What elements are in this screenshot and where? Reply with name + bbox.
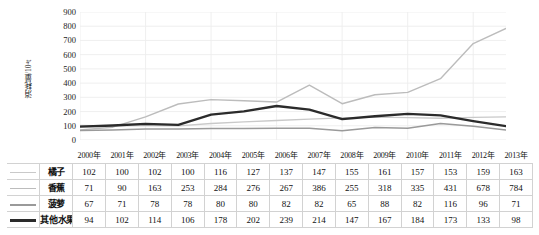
y-axis-tick: 200	[44, 107, 76, 116]
series-name-cell: 其他水果	[40, 212, 73, 228]
table-column-header-year: 2001年	[106, 148, 139, 164]
corner-swatch-cell	[7, 148, 40, 164]
table-column-header-year: 2003年	[171, 148, 204, 164]
y-axis-tick: 0	[44, 136, 76, 145]
table-column-header-year: 2008年	[335, 148, 368, 164]
table-column-header-year: 2010年	[401, 148, 434, 164]
table-cell-value: 100	[171, 164, 204, 180]
series-name-cell: 菠萝	[40, 196, 73, 212]
table-cell-value: 267	[270, 180, 303, 196]
table-cell-value: 202	[237, 212, 270, 228]
table-cell-value: 284	[204, 180, 237, 196]
table-body: 橘子10210010210011612713714715516115715315…	[7, 164, 533, 228]
y-axis-tick: 800	[44, 22, 76, 31]
table-cell-value: 102	[73, 164, 106, 180]
table-cell-value: 116	[204, 164, 237, 180]
table-column-header-year: 2007年	[303, 148, 336, 164]
table-cell-value: 82	[401, 196, 434, 212]
legend-swatch-cell	[7, 180, 40, 196]
y-axis-title: 消耗量/10⁴t	[24, 36, 38, 122]
y-axis-tick: 600	[44, 50, 76, 59]
table-cell-value: 102	[138, 164, 171, 180]
table-cell-value: 127	[237, 164, 270, 180]
table-cell-value: 239	[270, 212, 303, 228]
table-cell-value: 335	[401, 180, 434, 196]
table-cell-value: 178	[204, 212, 237, 228]
y-axis-tick: 500	[44, 65, 76, 74]
table-column-header-year: 2004年	[204, 148, 237, 164]
table-cell-value: 214	[303, 212, 336, 228]
table-cell-value: 82	[303, 196, 336, 212]
y-axis-tick: 300	[44, 93, 76, 102]
table-header: 2000年2001年2002年2003年2004年2005年2006年2007年…	[7, 148, 533, 164]
y-axis-tick: 400	[44, 79, 76, 88]
table-cell-value: 90	[106, 180, 139, 196]
plot-area	[80, 12, 506, 140]
y-axis-tick-labels: 9008007006005004003002001000	[44, 8, 76, 140]
table-row: 菠萝67717878808082826588821169671	[7, 196, 533, 212]
table-cell-value: 71	[106, 196, 139, 212]
table-cell-value: 116	[434, 196, 467, 212]
table-row: 香蕉71901632532842762673862553183354316787…	[7, 180, 533, 196]
legend-swatch-cell	[7, 164, 40, 180]
table-cell-value: 137	[270, 164, 303, 180]
data-table: 2000年2001年2002年2003年2004年2005年2006年2007年…	[7, 148, 533, 232]
table-cell-value: 153	[434, 164, 467, 180]
table-cell-value: 678	[467, 180, 500, 196]
table-cell-value: 167	[368, 212, 401, 228]
table-cell-value: 386	[303, 180, 336, 196]
y-axis-tick: 900	[44, 8, 76, 17]
plot-svg	[80, 12, 506, 140]
table-cell-value: 784	[500, 180, 533, 196]
table-column-header-year: 2009年	[368, 148, 401, 164]
table-header-row: 2000年2001年2002年2003年2004年2005年2006年2007年…	[7, 148, 533, 164]
legend-line-icon	[10, 204, 36, 206]
table-cell-value: 173	[434, 212, 467, 228]
table-cell-value: 106	[171, 212, 204, 228]
table-cell-value: 431	[434, 180, 467, 196]
series-name-cell: 橘子	[40, 164, 73, 180]
table-cell-value: 163	[138, 180, 171, 196]
table-column-header-year: 2002年	[138, 148, 171, 164]
table-cell-value: 78	[171, 196, 204, 212]
table-column-header-year: 2012年	[467, 148, 500, 164]
table-cell-value: 155	[335, 164, 368, 180]
table-cell-value: 161	[368, 164, 401, 180]
table-cell-value: 147	[303, 164, 336, 180]
table-cell-value: 80	[237, 196, 270, 212]
table-column-header-year: 2013年	[500, 148, 533, 164]
table-cell-value: 318	[368, 180, 401, 196]
table-column-header-year: 2006年	[270, 148, 303, 164]
chart-and-table-figure: 消耗量/10⁴t 9008007006005004003002001000 20…	[0, 0, 539, 235]
table-cell-value: 82	[270, 196, 303, 212]
table-cell-value: 184	[401, 212, 434, 228]
table-cell-value: 65	[335, 196, 368, 212]
table-cell-value: 100	[106, 164, 139, 180]
table-cell-value: 71	[73, 180, 106, 196]
legend-line-icon	[10, 188, 36, 190]
legend-line-icon	[10, 219, 36, 222]
table-column-header-year: 2011年	[434, 148, 467, 164]
table-cell-value: 255	[335, 180, 368, 196]
y-axis-tick: 700	[44, 36, 76, 45]
table-cell-value: 253	[171, 180, 204, 196]
table-cell-value: 102	[106, 212, 139, 228]
table-cell-value: 67	[73, 196, 106, 212]
table-cell-value: 157	[401, 164, 434, 180]
corner-label-cell	[40, 148, 73, 164]
series-name-cell: 香蕉	[40, 180, 73, 196]
data-series-lines	[80, 29, 506, 131]
table-cell-value: 133	[467, 212, 500, 228]
table-row: 其他水果941021141061782022392141471671841731…	[7, 212, 533, 228]
legend-swatch-cell	[7, 196, 40, 212]
table-cell-value: 94	[73, 212, 106, 228]
table-cell-value: 163	[500, 164, 533, 180]
table-cell-value: 276	[237, 180, 270, 196]
table-cell-value: 98	[500, 212, 533, 228]
table-cell-value: 114	[138, 212, 171, 228]
table-cell-value: 159	[467, 164, 500, 180]
table-column-header-year: 2005年	[237, 148, 270, 164]
table-cell-value: 96	[467, 196, 500, 212]
values-table: 2000年2001年2002年2003年2004年2005年2006年2007年…	[7, 148, 533, 228]
table-cell-value: 88	[368, 196, 401, 212]
